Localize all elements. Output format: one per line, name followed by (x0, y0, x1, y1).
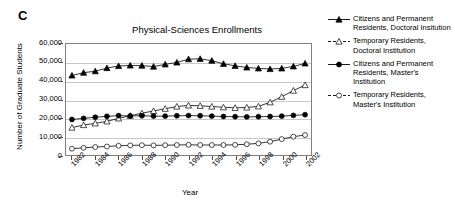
x-axis-title: Year (135, 188, 245, 197)
y-tick-mark (59, 62, 63, 63)
legend-entry: Citizens and Permanent Residents, Doctor… (327, 14, 452, 32)
legend: Citizens and Permanent Residents, Doctor… (327, 14, 452, 113)
series-2 (69, 112, 307, 122)
legend-label: Citizens and Permanent Residents, Doctor… (353, 14, 452, 32)
y-tick-mark (59, 156, 63, 157)
legend-entry: Temporary Residents, Doctoral Institutio… (327, 36, 452, 54)
legend-label: Temporary Residents, Master's Institutio… (353, 90, 452, 108)
open-triangle-icon (327, 37, 351, 46)
data-series-layer (66, 44, 311, 155)
series-0 (69, 56, 308, 78)
y-tick-mark (59, 43, 63, 44)
y-tick-mark (59, 100, 63, 101)
y-tick-mark (59, 137, 63, 138)
figure-panel: C Physical-Sciences Enrollments Number o… (0, 0, 455, 207)
y-tick-mark (59, 118, 63, 119)
chart-title: Physical-Sciences Enrollments (112, 24, 282, 35)
open-circle-icon (327, 91, 351, 100)
y-tick-mark (59, 81, 63, 82)
legend-entry: Temporary Residents, Master's Institutio… (327, 90, 452, 108)
legend-label: Citizens and Permanent Residents, Master… (353, 59, 452, 87)
legend-entry: Citizens and Permanent Residents, Master… (327, 59, 452, 87)
filled-circle-icon (327, 60, 351, 69)
filled-triangle-icon (327, 15, 351, 24)
legend-label: Temporary Residents, Doctoral Institutio… (353, 36, 452, 54)
plot-area (65, 43, 312, 156)
series-1 (69, 82, 308, 130)
series-3 (69, 133, 307, 152)
